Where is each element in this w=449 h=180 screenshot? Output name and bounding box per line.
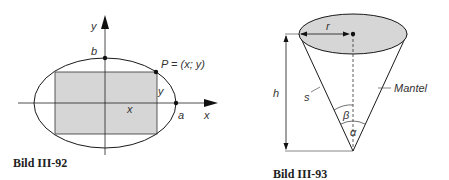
point-b xyxy=(103,56,107,60)
y-axis-arrow-icon xyxy=(101,15,109,29)
x-axis-label: x xyxy=(203,109,210,121)
y-dim-label: y xyxy=(157,85,165,97)
beta-label: β xyxy=(342,109,350,121)
s-label: s xyxy=(304,91,310,103)
s-leader xyxy=(311,87,320,92)
height-arrow-top-icon xyxy=(284,35,289,42)
point-p-label: P = (x; y) xyxy=(161,58,205,70)
alpha-label: α xyxy=(350,126,357,138)
a-label: a xyxy=(178,109,184,121)
cone-figure: r h s Mantel β α xyxy=(273,14,428,151)
b-label: b xyxy=(91,45,97,57)
figure1-caption: Bild III-92 xyxy=(13,156,67,171)
point-a xyxy=(174,101,178,105)
x-dim-label: x xyxy=(126,103,133,115)
y-axis-label: y xyxy=(90,20,98,32)
h-label: h xyxy=(273,87,279,99)
height-arrow-bottom-icon xyxy=(284,143,289,150)
figure2-caption: Bild III-93 xyxy=(273,167,327,180)
mantel-label: Mantel xyxy=(394,82,428,94)
base-center xyxy=(351,32,355,36)
x-axis-arrow-icon xyxy=(204,99,218,107)
point-p xyxy=(154,70,158,74)
ellipse-figure: y b P = (x; y) y x a x xyxy=(18,15,218,155)
figure-canvas: y b P = (x; y) y x a x r h s Mantel β α xyxy=(0,0,449,180)
